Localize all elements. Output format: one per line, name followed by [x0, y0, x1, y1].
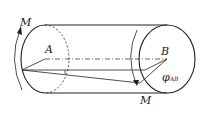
- angle-symbol: φ: [162, 71, 170, 84]
- angle-subscript: AB: [170, 75, 179, 82]
- right-moment-arc: [131, 30, 137, 84]
- generator-deformed: [22, 70, 140, 83]
- label-point-b: B: [161, 46, 169, 57]
- label-moment-right: M: [140, 95, 151, 106]
- label-moment-left: M: [20, 17, 31, 28]
- radius-a: [22, 59, 45, 70]
- label-angle: φAB: [162, 72, 178, 83]
- label-point-a: A: [45, 44, 53, 55]
